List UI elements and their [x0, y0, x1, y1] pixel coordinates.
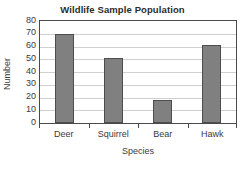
y-axis-tick-label: 60 [16, 41, 36, 50]
x-axis-title: Species [39, 146, 237, 156]
wildlife-population-bar-chart: Wildlife Sample Population Number 807060… [0, 0, 245, 170]
chart-title: Wildlife Sample Population [0, 4, 245, 15]
y-axis-tick-label: 20 [16, 92, 36, 101]
y-axis-tick-label: 40 [16, 67, 36, 76]
plot-area [39, 20, 237, 124]
y-axis-tick-label: 50 [16, 54, 36, 63]
x-axis-tick-label-squirrel: Squirrel [89, 129, 139, 139]
y-axis-tick-label: 80 [16, 16, 36, 25]
y-axis-tick-label: 70 [16, 28, 36, 37]
bar-deer[interactable] [55, 34, 74, 123]
x-axis-tick-marks [39, 124, 237, 128]
y-axis-tick-labels: 80706050403020100 [16, 20, 36, 124]
x-axis-tick-mark [39, 124, 40, 128]
y-axis-title-text: Number [2, 44, 16, 104]
bars-layer [40, 21, 236, 123]
y-axis-tick-label: 30 [16, 79, 36, 88]
bar-slot [40, 21, 89, 123]
x-axis-tick-mark [188, 124, 189, 128]
bar-squirrel[interactable] [104, 58, 123, 123]
y-axis-title: Number [2, 44, 16, 104]
bar-bear[interactable] [153, 100, 172, 123]
bar-slot [187, 21, 236, 123]
y-axis-tick-label: 10 [16, 105, 36, 114]
x-axis-tick-label-bear: Bear [138, 129, 188, 139]
x-axis-tick-mark [236, 124, 237, 128]
bar-slot [138, 21, 187, 123]
x-axis-tick-labels: DeerSquirrelBearHawk [39, 129, 237, 139]
bar-slot [89, 21, 138, 123]
x-axis-tick-mark [138, 124, 139, 128]
x-axis-tick-label-deer: Deer [39, 129, 89, 139]
y-axis-tick-label: 0 [16, 118, 36, 127]
bar-hawk[interactable] [202, 45, 221, 123]
x-axis-tick-mark [89, 124, 90, 128]
x-axis-tick-label-hawk: Hawk [188, 129, 238, 139]
